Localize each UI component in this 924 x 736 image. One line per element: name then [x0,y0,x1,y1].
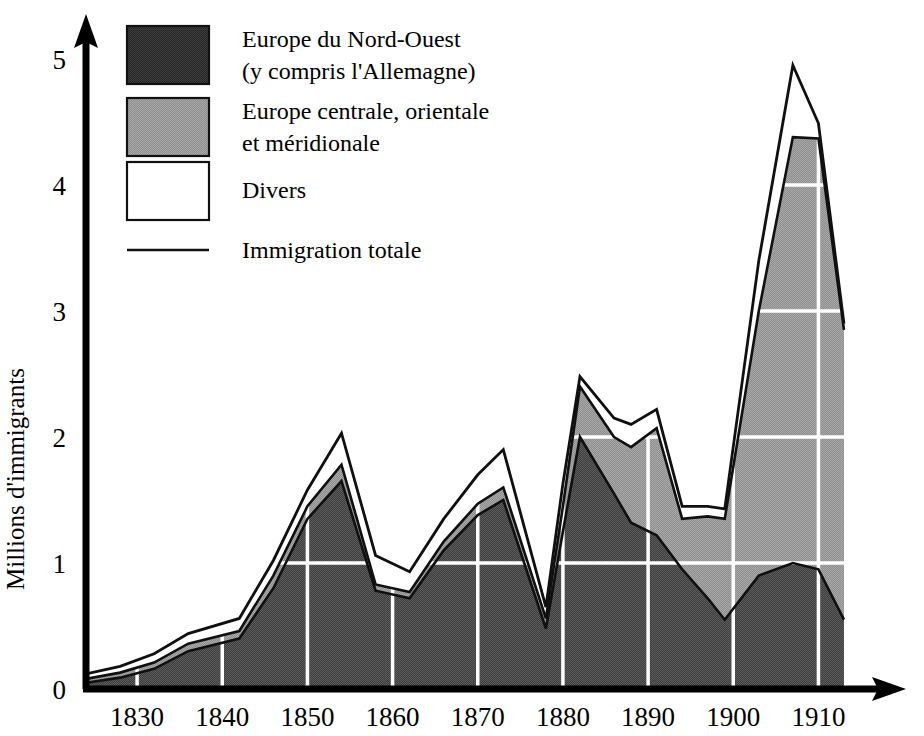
x-axis-tick-labels: 183018401850186018701880189019001910 [110,702,845,732]
chart-root: 012345 183018401850186018701880189019001… [0,0,924,736]
y-tick-5: 5 [53,45,67,75]
legend-label-1-cont: et méridionale [242,130,380,156]
x-tick-1900: 1900 [706,702,760,732]
x-tick-1840: 1840 [195,702,249,732]
x-tick-1890: 1890 [621,702,675,732]
y-tick-2: 2 [53,423,67,453]
y-tick-0: 0 [53,675,67,705]
legend-label-0-cont: (y compris l'Allemagne) [242,58,476,84]
x-tick-1830: 1830 [110,702,164,732]
legend-swatch-gray [127,98,209,156]
y-tick-3: 3 [53,297,67,327]
legend-label-0: Europe du Nord-Ouest [242,26,461,52]
immigration-area-chart: 012345 183018401850186018701880189019001… [0,0,924,736]
legend-swatch-white [127,162,209,220]
y-tick-4: 4 [53,171,67,201]
y-tick-1: 1 [53,549,67,579]
x-tick-1860: 1860 [366,702,420,732]
legend-label-2: Divers [242,177,306,203]
x-tick-1910: 1910 [791,702,845,732]
legend-label-3: Immigration totale [242,237,421,263]
legend-label-1: Europe centrale, orientale [242,98,489,124]
x-tick-1850: 1850 [280,702,334,732]
y-axis-title: Millions d'immigrants [2,368,29,590]
legend-swatch-dark [127,26,209,84]
x-tick-1880: 1880 [536,702,590,732]
x-tick-1870: 1870 [451,702,505,732]
